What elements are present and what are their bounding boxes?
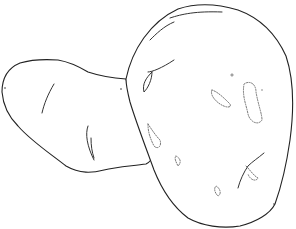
large-potato (126, 5, 293, 227)
potato-drawing (0, 0, 296, 229)
